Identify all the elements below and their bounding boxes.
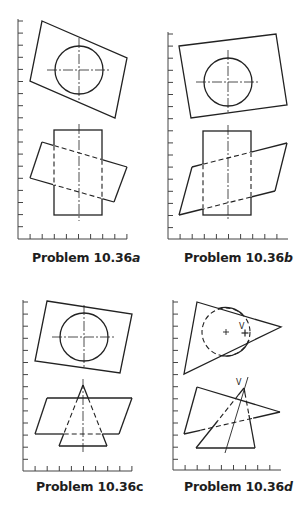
plane-edge bbox=[35, 398, 47, 434]
plane-edge bbox=[102, 199, 114, 202]
pyramid-edge bbox=[59, 434, 64, 446]
plane-edge-hidden bbox=[200, 418, 253, 430]
plane-edge-hidden bbox=[54, 185, 102, 199]
panel-b bbox=[168, 32, 288, 239]
caption-suffix: c bbox=[136, 479, 143, 494]
caption-problem-d: Problem 10.36d bbox=[184, 479, 293, 494]
upper-plane-triangle bbox=[184, 302, 281, 374]
caption-problem-c: Problem 10.36c bbox=[36, 479, 143, 494]
upper-plane-outline bbox=[30, 21, 127, 118]
prism-outline bbox=[203, 131, 251, 215]
plane-edge bbox=[179, 209, 203, 215]
plane-edge bbox=[251, 143, 287, 152]
pyramid-edge bbox=[78, 385, 83, 398]
prism-outline bbox=[54, 130, 102, 215]
pyramid-edge-hidden bbox=[218, 395, 239, 421]
plane-edge bbox=[114, 167, 127, 202]
plane-edge bbox=[119, 398, 132, 434]
vertex-label-v: V bbox=[236, 378, 242, 387]
plane-edge bbox=[192, 164, 203, 167]
vertex-label-v: V bbox=[239, 322, 245, 331]
plane-edge-hidden bbox=[203, 152, 251, 164]
pyramid-edge bbox=[102, 434, 107, 446]
pyramid-edge-hidden bbox=[245, 393, 249, 415]
plane-edge bbox=[253, 412, 280, 418]
plane-edge bbox=[275, 143, 287, 191]
plane-edge bbox=[184, 387, 197, 434]
panel-c bbox=[23, 300, 132, 471]
pyramid-edge bbox=[249, 415, 255, 448]
caption-problem-a: Problem 10.36a bbox=[32, 250, 140, 265]
plane-edge bbox=[251, 191, 275, 197]
plane-edge bbox=[184, 430, 200, 434]
pyramid-edge-hidden bbox=[64, 398, 78, 434]
caption-prefix: Problem 10.36 bbox=[184, 479, 284, 494]
plane-edge bbox=[102, 160, 127, 167]
caption-prefix: Problem 10.36 bbox=[36, 479, 136, 494]
caption-prefix: Problem 10.36 bbox=[184, 250, 284, 265]
panel-d: VV bbox=[173, 300, 281, 470]
caption-prefix: Problem 10.36 bbox=[32, 250, 132, 265]
plane-edge bbox=[179, 167, 192, 215]
plane-edge bbox=[30, 142, 42, 178]
panel-a bbox=[18, 19, 127, 239]
plane-edge bbox=[42, 142, 54, 146]
plane-edge-hidden bbox=[203, 197, 251, 209]
projection-line bbox=[225, 377, 248, 453]
pyramid-edge bbox=[83, 385, 88, 398]
pyramid-edge bbox=[196, 421, 218, 448]
pyramid-edge-hidden bbox=[88, 398, 102, 434]
caption-suffix: a bbox=[132, 250, 140, 265]
upper-plane-outline bbox=[35, 301, 132, 373]
plane-edge bbox=[30, 178, 54, 185]
caption-problem-b: Problem 10.36b bbox=[184, 250, 293, 265]
caption-suffix: d bbox=[284, 479, 293, 494]
problem-figure-set: VV Problem 10.36a Problem 10.36b Problem… bbox=[0, 0, 302, 515]
plane-edge-hidden bbox=[54, 146, 102, 160]
caption-suffix: b bbox=[284, 250, 293, 265]
